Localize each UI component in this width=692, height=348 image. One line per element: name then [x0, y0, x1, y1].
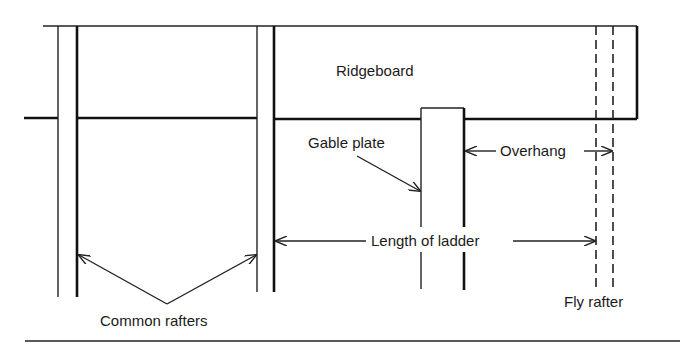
overhang-label: Overhang	[500, 142, 566, 159]
gable-plate	[421, 108, 464, 290]
ridgeboard-diagram: Ridgeboard Gable plate Overhang Length o…	[0, 0, 692, 348]
fly-rafter-label: Fly rafter	[564, 293, 623, 310]
common-rafters-leader-left	[79, 255, 167, 304]
common-rafters-label: Common rafters	[100, 312, 208, 329]
ladder-length-label: Length of ladder	[371, 232, 479, 249]
fly-rafter	[596, 26, 613, 290]
ridgeboard-label: Ridgeboard	[336, 62, 414, 79]
gable-plate-label: Gable plate	[308, 134, 385, 151]
common-rafter-2	[257, 26, 274, 292]
common-rafter-1	[58, 26, 77, 297]
common-rafters-leader-right	[167, 255, 256, 304]
gable-plate-leader-arrow	[357, 156, 420, 191]
